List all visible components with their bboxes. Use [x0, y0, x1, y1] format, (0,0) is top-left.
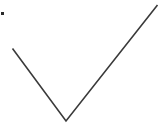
checkmark-stroke	[13, 5, 158, 121]
bullet-dot	[1, 12, 4, 15]
checkmark-canvas	[0, 0, 160, 125]
checkmark-icon	[0, 0, 160, 125]
